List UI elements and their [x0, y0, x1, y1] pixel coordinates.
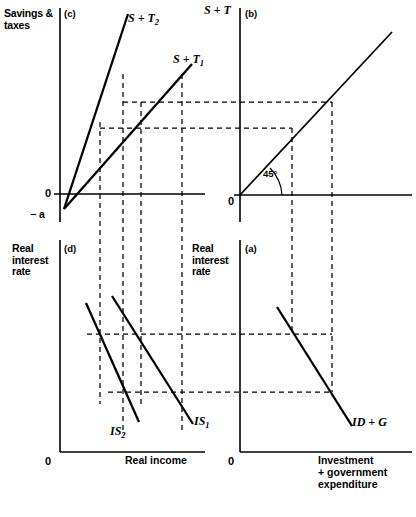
panel-c-origin-label: 0 — [45, 187, 51, 199]
curve-label-is1-text: IS — [194, 414, 205, 428]
panel-d-axes — [60, 240, 205, 452]
curve-label-is2: IS2 — [110, 424, 126, 440]
panel-b-tag: (b) — [245, 8, 257, 19]
curve-label-s-plus-t2: S + T2 — [128, 11, 159, 27]
curve-s-plus-t2 — [64, 14, 128, 209]
panel-a-curves — [277, 307, 352, 426]
panel-c-curves — [64, 14, 192, 209]
figure-root: Savings & taxes (c) 0 − a S + T2 S + T1 … — [0, 0, 416, 517]
panel-d-curves — [86, 296, 193, 424]
panel-c-tag: (c) — [64, 8, 76, 19]
panel-c-intercept-label: − a — [30, 208, 45, 220]
curve-label-is1: IS1 — [194, 414, 210, 430]
curve-s-plus-t1 — [64, 64, 192, 209]
curve-label-is1-sub: 1 — [205, 420, 209, 430]
curve-label-id-plus-g: ID + G — [352, 415, 387, 430]
panel-b-origin-label: 0 — [228, 195, 234, 207]
curve-label-is2-sub: 2 — [121, 430, 125, 440]
curve-is1 — [112, 296, 193, 424]
curve-label-s-plus-t1: S + T1 — [173, 52, 204, 68]
panel-a-x-axis-label: Investment + government expenditure — [318, 455, 387, 490]
curve-label-s-plus-t1-text: S + T — [173, 52, 200, 66]
curve-label-is2-text: IS — [110, 424, 121, 438]
panel-d-origin-label: 0 — [45, 455, 51, 467]
panel-d-y-axis-label: Real interest rate — [12, 243, 60, 278]
curve-label-s-plus-t2-sub: 2 — [155, 17, 159, 27]
panel-b-y-axis-label: S + T — [204, 3, 231, 18]
curve-label-s-plus-t1-sub: 1 — [200, 58, 204, 68]
panel-b-angle-label: 45° — [263, 168, 277, 179]
curve-is2 — [86, 303, 139, 422]
panel-c-y-axis-label: Savings & taxes — [4, 8, 60, 31]
panel-d-x-axis-label: Real income — [125, 455, 187, 467]
panel-a-origin-label: 0 — [228, 455, 234, 467]
curve-label-s-plus-t2-text: S + T — [128, 11, 155, 25]
panel-a-y-axis-label: Real interest rate — [192, 243, 240, 278]
panel-a-tag: (a) — [245, 243, 257, 254]
panel-d-tag: (d) — [64, 243, 76, 254]
curve-id-plus-g — [277, 307, 352, 426]
